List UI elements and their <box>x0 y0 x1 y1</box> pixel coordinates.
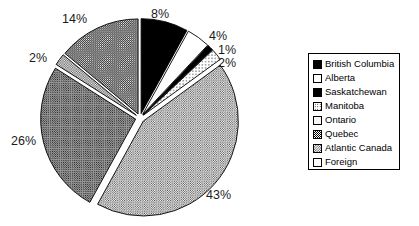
slice-label-alberta: 4% <box>209 30 227 43</box>
legend-label-manitoba: Manitoba <box>325 101 364 111</box>
legend-item-atlantic-canada[interactable]: Atlantic Canada <box>313 141 396 155</box>
legend-item-foreign[interactable]: Foreign <box>313 155 396 169</box>
legend-swatch-atlantic-canada <box>313 144 322 153</box>
chart-legend: British Columbia Alberta Saskatchewan Ma… <box>308 53 400 170</box>
legend-item-alberta[interactable]: Alberta <box>313 71 396 85</box>
legend-item-ontario[interactable]: Ontario <box>313 113 396 127</box>
legend-swatch-ontario <box>313 116 322 125</box>
slice-label-british-columbia: 8% <box>151 8 169 21</box>
legend-item-british-columbia[interactable]: British Columbia <box>313 57 396 71</box>
legend-label-saskatchewan: Saskatchewan <box>325 87 387 97</box>
legend-label-ontario: Ontario <box>325 115 356 125</box>
legend-swatch-foreign <box>313 158 322 167</box>
legend-swatch-quebec <box>313 130 322 139</box>
slice-label-saskatchewan: 1% <box>218 44 236 57</box>
legend-item-saskatchewan[interactable]: Saskatchewan <box>313 85 396 99</box>
slice-label-foreign: 14% <box>62 13 87 26</box>
legend-swatch-british-columbia <box>313 60 322 69</box>
legend-item-manitoba[interactable]: Manitoba <box>313 99 396 113</box>
slice-label-atlantic-canada: 2% <box>29 52 47 65</box>
legend-label-british-columbia: British Columbia <box>325 59 394 69</box>
legend-label-quebec: Quebec <box>325 129 358 139</box>
slice-label-quebec: 26% <box>11 135 36 148</box>
legend-item-quebec[interactable]: Quebec <box>313 127 396 141</box>
pie-chart-figure: 8% 4% 1% 2% 43% 26% 2% 14% British Colum… <box>0 0 419 226</box>
slice-label-ontario: 43% <box>206 189 231 202</box>
pie-slices-group <box>41 19 239 216</box>
legend-label-atlantic-canada: Atlantic Canada <box>325 143 392 153</box>
slice-label-manitoba: 2% <box>218 57 236 70</box>
legend-swatch-manitoba <box>313 102 322 111</box>
legend-swatch-alberta <box>313 74 322 83</box>
legend-label-foreign: Foreign <box>325 157 357 167</box>
legend-swatch-saskatchewan <box>313 88 322 97</box>
legend-label-alberta: Alberta <box>325 73 355 83</box>
